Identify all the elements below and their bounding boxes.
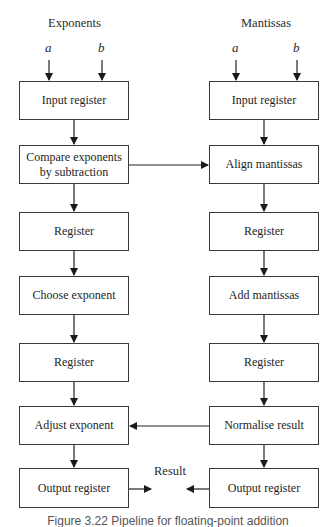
add-mantissas-box: Add mantissas: [209, 276, 319, 315]
exponent-input-b-label: b: [98, 40, 105, 56]
normalise-result-box: Normalise result: [209, 406, 319, 445]
exponent-output-register: Output register: [19, 468, 129, 508]
figure-caption: Figure 3.22 Pipeline for floating-point …: [0, 514, 336, 527]
box-label: Compare exponents by subtraction: [26, 150, 122, 180]
exponent-register-1: Register: [19, 212, 129, 251]
box-label: Input register: [42, 93, 106, 108]
box-label: Normalise result: [224, 418, 304, 433]
box-label: Register: [244, 355, 284, 370]
exponents-title: Exponents: [48, 16, 101, 31]
box-label: Add mantissas: [229, 288, 299, 303]
exponent-register-2: Register: [19, 343, 129, 382]
compare-exponents-box: Compare exponents by subtraction: [19, 145, 129, 184]
exponent-input-a-label: a: [45, 40, 52, 56]
mantissa-register-2: Register: [209, 343, 319, 382]
mantissas-title: Mantissas: [241, 16, 291, 31]
box-label: Adjust exponent: [35, 418, 114, 433]
box-label: Register: [54, 224, 94, 239]
mantissa-register-1: Register: [209, 212, 319, 251]
result-label: Result: [154, 464, 186, 479]
connector-arrows: [0, 0, 336, 527]
adjust-exponent-box: Adjust exponent: [19, 406, 129, 445]
box-label: Output register: [38, 481, 110, 496]
box-label: Output register: [228, 481, 300, 496]
box-label: Align mantissas: [226, 157, 303, 172]
align-mantissas-box: Align mantissas: [209, 145, 319, 184]
mantissa-input-b-label: b: [293, 40, 300, 56]
box-label: Input register: [232, 93, 296, 108]
mantissa-input-register: Input register: [209, 81, 319, 120]
box-label: Register: [54, 355, 94, 370]
choose-exponent-box: Choose exponent: [19, 276, 129, 315]
pipeline-diagram: Exponents Mantissas a b a b Input regist…: [0, 0, 336, 527]
box-label: Choose exponent: [33, 288, 116, 303]
exponent-input-register: Input register: [19, 81, 129, 120]
box-label: Register: [244, 224, 284, 239]
figure-caption-container: Figure 3.22 Pipeline for floating-point …: [0, 513, 336, 527]
mantissa-output-register: Output register: [209, 468, 319, 508]
mantissa-input-a-label: a: [232, 40, 239, 56]
